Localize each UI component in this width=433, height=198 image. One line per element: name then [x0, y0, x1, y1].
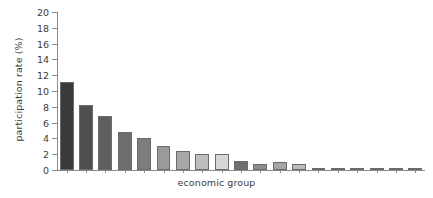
x-tick-mark [125, 170, 126, 173]
x-tick-mark [280, 170, 281, 173]
x-tick-mark [415, 170, 416, 173]
plot-area: 02468101214161820 [57, 12, 425, 170]
y-tick-mark [52, 44, 57, 45]
y-tick-mark [52, 138, 57, 139]
x-tick-mark [377, 170, 378, 173]
x-tick-mark [144, 170, 145, 173]
x-tick-mark [396, 170, 397, 173]
bar [60, 82, 74, 170]
x-tick-mark [164, 170, 165, 173]
y-tick-label: 8 [43, 101, 49, 112]
x-tick-mark [67, 170, 68, 173]
y-tick-mark [52, 154, 57, 155]
y-tick-mark [52, 107, 57, 108]
x-tick-mark [260, 170, 261, 173]
x-tick-mark [222, 170, 223, 173]
x-tick-mark [183, 170, 184, 173]
y-tick-mark [52, 75, 57, 76]
y-tick-mark [52, 91, 57, 92]
bar [176, 151, 190, 170]
x-tick-mark [105, 170, 106, 173]
y-tick-mark [52, 59, 57, 60]
y-tick-label: 12 [37, 70, 49, 81]
y-tick-label: 16 [37, 38, 49, 49]
x-tick-mark [202, 170, 203, 173]
x-tick-mark [318, 170, 319, 173]
bar [137, 138, 151, 170]
y-tick-label: 18 [37, 22, 49, 33]
y-tick-mark [52, 12, 57, 13]
x-axis-title: economic group [0, 177, 433, 188]
x-tick-mark [86, 170, 87, 173]
bar [157, 146, 171, 170]
y-tick-label: 14 [37, 54, 49, 65]
x-tick-mark [338, 170, 339, 173]
y-tick-mark [52, 123, 57, 124]
bar [79, 105, 93, 170]
x-tick-mark [241, 170, 242, 173]
bar [215, 154, 229, 170]
y-tick-mark [52, 28, 57, 29]
y-tick-label: 4 [43, 133, 49, 144]
y-tick-label: 10 [37, 86, 49, 97]
y-axis-title: participation rate (%) [13, 20, 24, 160]
x-tick-mark [357, 170, 358, 173]
bar [118, 132, 132, 170]
bar [234, 161, 248, 170]
y-tick-label: 20 [37, 7, 49, 18]
bar-chart-figure: participation rate (%) 02468101214161820… [0, 0, 433, 198]
x-tick-mark [299, 170, 300, 173]
bar [273, 162, 287, 170]
y-tick-label: 6 [43, 117, 49, 128]
y-tick-mark [52, 170, 57, 171]
bar [195, 154, 209, 170]
y-tick-label: 2 [43, 149, 49, 160]
bar [98, 116, 112, 170]
y-tick-label: 0 [43, 165, 49, 176]
